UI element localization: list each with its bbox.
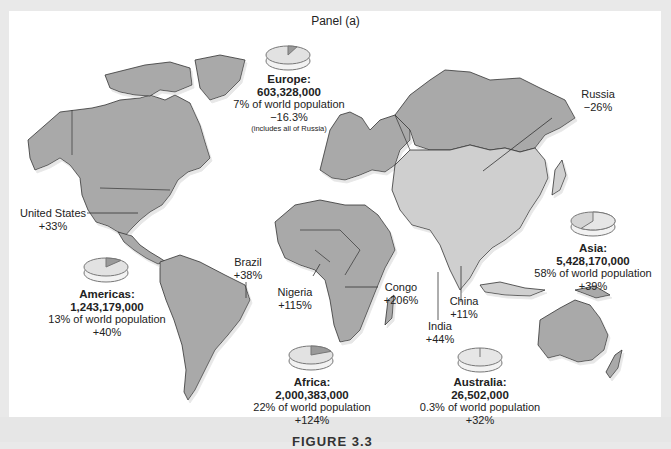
arctic-islands xyxy=(105,62,192,96)
label-russia: Russia−26% xyxy=(578,88,618,113)
pie-asia xyxy=(571,212,615,236)
label-united-states: United States+33% xyxy=(12,207,94,232)
label-nigeria: Nigeria+115% xyxy=(272,286,318,311)
russia xyxy=(395,70,575,152)
panel-title: Panel (a) xyxy=(0,14,671,28)
pie-africa xyxy=(289,346,333,370)
australia xyxy=(538,300,608,362)
new-zealand xyxy=(606,350,622,378)
region-americas: Americas: 1,243,179,000 13% of world pop… xyxy=(42,288,172,338)
region-europe: Europe: 603,328,000 7% of world populati… xyxy=(224,73,354,136)
africa xyxy=(275,200,395,342)
region-australia: Australia: 26,502,000 0.3% of world popu… xyxy=(410,376,550,426)
label-brazil: Brazil+38% xyxy=(228,256,268,281)
region-asia: Asia: 5,428,170,000 58% of world populat… xyxy=(526,242,660,292)
pie-europe xyxy=(266,46,310,70)
asia xyxy=(392,145,548,290)
central-america xyxy=(118,232,166,264)
japan xyxy=(552,160,566,195)
region-africa: Africa: 2,000,383,000 22% of world popul… xyxy=(246,376,378,426)
label-india: India+44% xyxy=(424,320,456,345)
label-china: China+11% xyxy=(446,295,482,320)
pie-americas xyxy=(84,258,128,282)
label-congo: Congo+206% xyxy=(379,281,423,306)
pie-australia xyxy=(458,348,502,372)
